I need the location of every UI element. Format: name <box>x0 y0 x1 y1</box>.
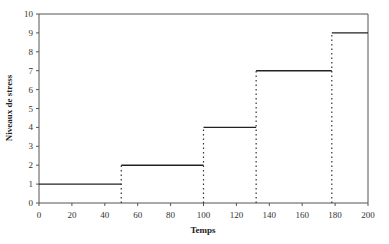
y-tick-label: 2 <box>29 160 34 170</box>
y-tick-label: 5 <box>29 104 34 114</box>
x-tick-label: 200 <box>361 210 375 220</box>
axes: 012345678910020406080100120140160180200 <box>24 9 375 220</box>
y-tick-label: 7 <box>29 66 34 76</box>
y-tick-label: 10 <box>24 9 34 19</box>
step-chart: 012345678910020406080100120140160180200 … <box>0 0 389 244</box>
x-tick-label: 20 <box>67 210 77 220</box>
x-tick-label: 80 <box>166 210 176 220</box>
x-axis-title: Temps <box>190 225 216 235</box>
y-tick-label: 4 <box>29 122 34 132</box>
x-tick-label: 0 <box>37 210 42 220</box>
y-axis-title: Niveaux de stress <box>4 74 14 141</box>
x-tick-label: 140 <box>263 210 277 220</box>
x-tick-label: 120 <box>230 210 244 220</box>
y-tick-label: 8 <box>29 47 34 57</box>
x-tick-label: 60 <box>133 210 143 220</box>
y-tick-label: 3 <box>29 141 34 151</box>
y-tick-label: 6 <box>29 85 34 95</box>
y-tick-label: 9 <box>29 28 34 38</box>
x-tick-label: 100 <box>197 210 211 220</box>
y-tick-label: 1 <box>29 179 34 189</box>
plot-area <box>39 33 368 203</box>
x-tick-label: 40 <box>100 210 110 220</box>
y-tick-label: 0 <box>29 198 34 208</box>
x-tick-label: 180 <box>328 210 342 220</box>
x-tick-label: 160 <box>295 210 309 220</box>
